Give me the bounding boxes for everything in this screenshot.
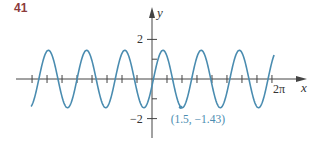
critical-point-marker <box>179 106 183 110</box>
critical-point-label: (1.5, −1.43) <box>171 113 226 126</box>
x-axis-label: x <box>300 80 307 95</box>
y-tick-label-neg2: −2 <box>130 112 143 126</box>
x-tick-label-2pi: 2π <box>273 82 285 96</box>
y-tick-label-2: 2 <box>137 32 143 46</box>
y-axis-label: y <box>155 5 163 20</box>
sine-graph: (1.5, −1.43) x y 2π 2 −2 <box>0 0 323 142</box>
axes <box>16 7 307 138</box>
y-axis-arrow <box>149 7 155 18</box>
